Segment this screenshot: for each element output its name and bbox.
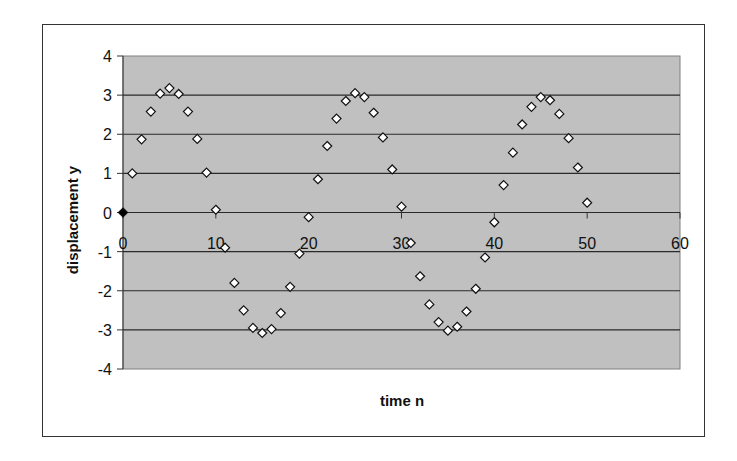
x-axis-title: time n xyxy=(380,392,424,409)
y-tick-label: 4 xyxy=(103,48,112,65)
y-tick-label: 2 xyxy=(103,126,112,143)
y-tick-label: -1 xyxy=(98,244,112,261)
x-tick-label: 60 xyxy=(671,235,689,252)
y-tick-label: -3 xyxy=(98,322,112,339)
y-tick-label: 0 xyxy=(103,205,112,222)
x-tick-label: 50 xyxy=(578,235,596,252)
y-tick-label: -2 xyxy=(98,283,112,300)
x-tick-label: 0 xyxy=(119,235,128,252)
x-tick-label: 20 xyxy=(300,235,318,252)
y-tick-label: 3 xyxy=(103,87,112,104)
scatter-chart: 43210-1-2-3-4 0102030405060 time n displ… xyxy=(0,0,737,461)
y-axis-title: displacement y xyxy=(64,165,81,274)
y-tick-label: 1 xyxy=(103,165,112,182)
y-tick-label: -4 xyxy=(98,361,112,378)
x-tick-label: 40 xyxy=(485,235,503,252)
